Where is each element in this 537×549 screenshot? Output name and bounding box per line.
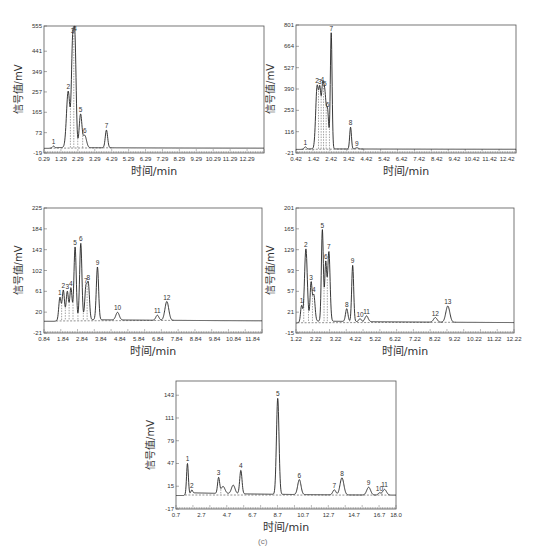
x-tick-label: 1.22 — [290, 336, 302, 342]
y-tick-label: 143 — [164, 392, 175, 398]
x-tick-label: 4.29 — [106, 156, 118, 162]
x-tick-label: 10.84 — [226, 336, 242, 342]
x-tick-label: 5.29 — [123, 156, 135, 162]
peak-label: 8 — [349, 119, 353, 126]
peak-label: 9 — [355, 140, 359, 147]
x-tick-label: 10.22 — [467, 336, 483, 342]
peak-label: 4 — [73, 25, 77, 32]
peak-label: 1 — [52, 138, 56, 145]
x-tick-label: 1.42 — [308, 156, 320, 162]
peak-label: 8 — [87, 274, 91, 281]
y-tick-label: 79 — [167, 438, 174, 444]
x-tick-label: 1.84 — [57, 336, 69, 342]
y-tick-label: 555 — [32, 23, 43, 29]
x-tick-label: 4.22 — [350, 336, 362, 342]
y-tick-label: 61 — [35, 288, 42, 294]
chromatogram-bottom-center: 0.72.74.76.78.710.712.714.716.718.0-1715… — [130, 378, 420, 538]
x-tick-label: 10.42 — [464, 156, 480, 162]
chart-svg: 0.291.292.293.294.295.296.297.298.299.29… — [0, 20, 268, 180]
peak-label: 8 — [340, 470, 344, 477]
peak-label: 11 — [363, 308, 370, 315]
y-tick-label: -21 — [33, 330, 42, 336]
x-tick-label: 8.29 — [174, 156, 186, 162]
x-tick-label: 0.29 — [38, 156, 50, 162]
y-tick-label: 20 — [35, 309, 42, 315]
x-tick-label: 16.7 — [374, 512, 386, 518]
peak-label: 5 — [323, 80, 327, 87]
y-tick-label: 143 — [32, 247, 43, 253]
x-tick-label: 9.84 — [209, 336, 221, 342]
y-tick-label: 390 — [284, 86, 295, 92]
chart-svg: 0.421.422.423.424.425.426.427.428.429.42… — [268, 20, 537, 180]
x-tick-label: 5.84 — [133, 336, 145, 342]
y-tick-label: 165 — [284, 226, 295, 232]
peak-label: 7 — [329, 25, 333, 32]
y-tick-label: 225 — [32, 205, 43, 211]
peak-label: 5 — [321, 222, 325, 229]
x-tick-label: 18.0 — [390, 512, 402, 518]
x-axis-label: 时间/min — [263, 521, 309, 534]
peak-label: 8 — [345, 301, 349, 308]
peak-label: 3 — [217, 469, 221, 476]
x-tick-label: 11.29 — [223, 156, 238, 162]
x-tick-label: 3.84 — [95, 336, 107, 342]
peak-label: 12 — [432, 310, 440, 317]
chromatogram-top-left: 0.291.292.293.294.295.296.297.298.299.29… — [0, 20, 268, 180]
peak-label: 12 — [163, 294, 171, 301]
peak-label: 2 — [190, 482, 194, 489]
y-axis-label: 信号值/mV — [264, 64, 276, 114]
y-tick-label: -19 — [33, 150, 42, 156]
x-tick-label: 3.22 — [330, 336, 342, 342]
peak-label: 6 — [326, 101, 330, 108]
peak-label: 2 — [66, 83, 70, 90]
peak-label: 1 — [300, 297, 304, 304]
peak-label: 6 — [324, 253, 328, 260]
y-tick-label: 102 — [32, 268, 43, 274]
y-axis-label: 信号值/mV — [12, 64, 24, 114]
peak-label: 9 — [367, 479, 371, 486]
y-tick-label: 801 — [284, 22, 295, 28]
x-tick-label: 8.22 — [429, 336, 441, 342]
plot-frame — [296, 25, 516, 153]
chromatogram-middle-left: 0.841.842.843.844.845.846.847.848.849.84… — [0, 200, 268, 360]
y-tick-label: 57 — [287, 288, 294, 294]
x-tick-label: 7.84 — [171, 336, 183, 342]
peak-label: 1 — [186, 455, 190, 462]
x-tick-label: 3.29 — [89, 156, 101, 162]
x-tick-label: 4.84 — [114, 336, 126, 342]
plot-frame — [296, 208, 514, 333]
y-tick-label: 527 — [284, 65, 295, 71]
peak-label: 4 — [69, 280, 73, 287]
peak-label: 6 — [83, 127, 87, 134]
y-tick-label: 184 — [32, 226, 43, 232]
peak-label: 7 — [105, 122, 109, 129]
y-tick-label: -15 — [285, 330, 294, 336]
x-tick-label: 12.7 — [323, 512, 335, 518]
chart-svg: 0.72.74.76.78.710.712.714.716.718.0-1715… — [130, 378, 420, 538]
peak-label: 4 — [312, 286, 316, 293]
peak-label: 1 — [304, 139, 308, 146]
y-tick-label: 47 — [167, 460, 174, 466]
peak-label: 11 — [154, 307, 161, 314]
x-tick-label: 0.7 — [172, 512, 181, 518]
peak-label: 4 — [239, 462, 243, 469]
x-tick-label: 6.84 — [152, 336, 164, 342]
peak-label: 5 — [79, 106, 83, 113]
x-tick-label: 0.42 — [290, 156, 302, 162]
x-tick-label: 12.29 — [240, 156, 256, 162]
x-tick-label: 5.22 — [369, 336, 381, 342]
y-tick-label: 73 — [35, 130, 42, 136]
x-tick-label: 9.42 — [449, 156, 461, 162]
y-axis-label: 信号值/mV — [144, 420, 156, 470]
x-tick-label: 8.42 — [431, 156, 443, 162]
x-tick-label: 0.84 — [38, 336, 50, 342]
x-tick-label: 6.29 — [140, 156, 152, 162]
y-tick-label: 21 — [287, 309, 294, 315]
y-tick-label: -17 — [165, 506, 174, 512]
plot-frame — [176, 381, 396, 509]
chromatogram-top-right: 0.421.422.423.424.425.426.427.428.429.42… — [268, 20, 537, 180]
x-tick-label: 2.84 — [76, 336, 88, 342]
x-tick-label: 3.42 — [343, 156, 355, 162]
peak-label: 13 — [444, 298, 452, 305]
y-tick-label: 129 — [284, 247, 295, 253]
